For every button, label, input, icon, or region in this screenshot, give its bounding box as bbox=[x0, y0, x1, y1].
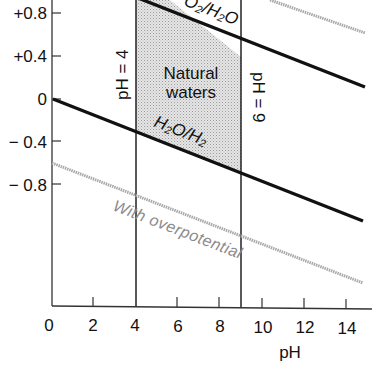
natural-waters-label: waters bbox=[165, 83, 216, 102]
y-tick-label: 0 bbox=[38, 90, 47, 109]
y-tick-label: − 0.8 bbox=[9, 176, 47, 195]
x-tick-label: 10 bbox=[254, 318, 273, 337]
y-tick-label: +0.4 bbox=[13, 47, 47, 66]
x-axis-title: pH bbox=[279, 343, 301, 362]
y-tick-label: +0.8 bbox=[13, 4, 47, 23]
y-tick-label: − 0.4 bbox=[9, 133, 47, 152]
o2-overpotential-line bbox=[270, 0, 365, 33]
natural-waters-label: Natural bbox=[164, 64, 219, 83]
x-tick-label: 6 bbox=[173, 317, 182, 336]
x-axis bbox=[52, 306, 372, 309]
h2-overpotential-line bbox=[52, 163, 363, 283]
x-tick-label: 14 bbox=[338, 319, 357, 338]
x-tick-label: 4 bbox=[130, 316, 139, 335]
ph9-label: pH = 9 bbox=[249, 72, 268, 123]
pourbaix-chart: +0.8 +0.4 0 − 0.4 − 0.8 0 2 4 6 8 10 12 … bbox=[0, 0, 377, 381]
x-tick-label: 0 bbox=[44, 316, 53, 335]
ph4-label: pH = 4 bbox=[113, 49, 132, 100]
x-tick-label: 12 bbox=[296, 318, 315, 337]
x-tick-label: 2 bbox=[88, 316, 97, 335]
x-tick-label: 8 bbox=[215, 317, 224, 336]
